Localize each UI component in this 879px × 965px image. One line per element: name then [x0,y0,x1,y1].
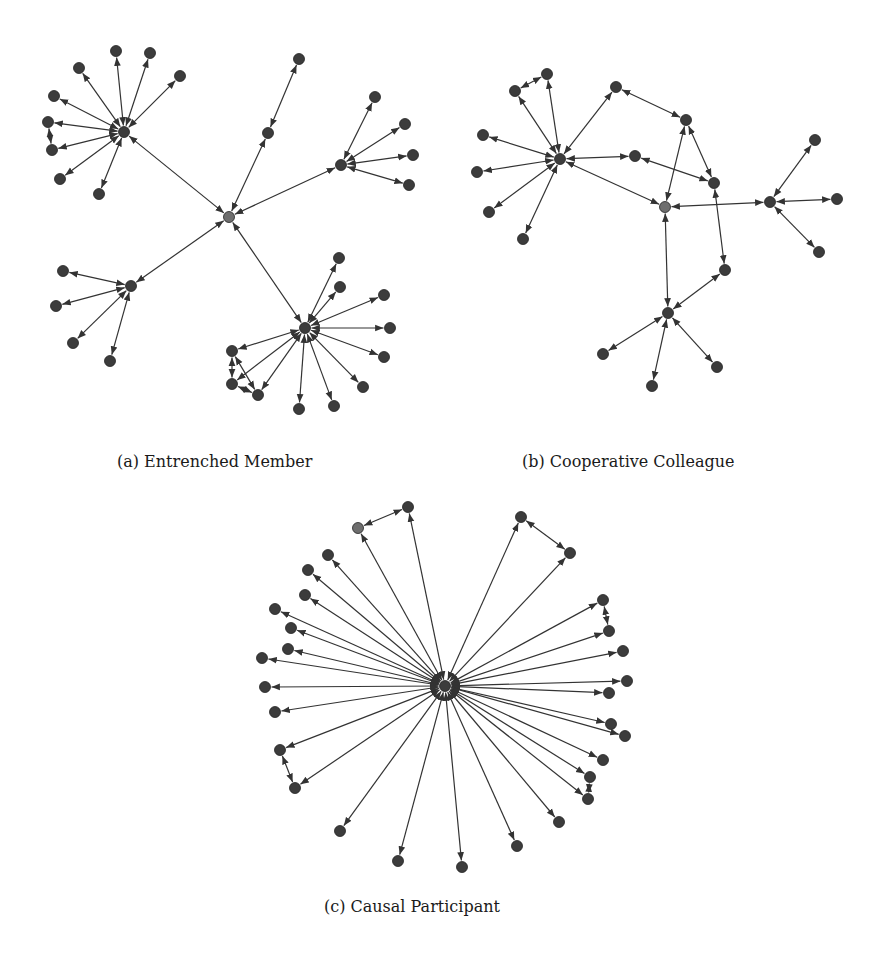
node [583,794,594,805]
edge [262,333,302,389]
edge [117,58,124,126]
center-node [660,202,671,213]
node [622,676,633,687]
node [51,301,62,312]
edge [672,318,712,362]
node [478,130,489,141]
node [336,160,347,171]
edge [286,688,439,747]
edge [609,317,663,351]
edge [300,690,439,785]
edge [271,65,297,127]
node [260,682,271,693]
edge [519,96,557,153]
edge [233,222,302,322]
graph-entrenched-member [43,46,419,415]
node [227,379,238,390]
edge [448,523,519,680]
node [765,197,776,208]
node [832,194,843,205]
edge [521,77,542,88]
node [606,719,617,730]
node [175,71,186,82]
network-figure [0,0,879,965]
edge [297,630,439,683]
node [472,167,483,178]
edge [235,168,335,215]
edge [129,136,224,213]
edge [653,319,666,379]
node [618,646,629,657]
node [379,352,390,363]
node [510,86,521,97]
edge [526,521,565,549]
edge [281,687,438,711]
edge [129,81,176,128]
caption-entrenched-member: (a) Entrenched Member [117,452,312,471]
edge [589,784,590,793]
node [227,346,238,357]
node [565,548,576,559]
edge [777,199,831,201]
edge [272,686,439,687]
node [294,404,305,415]
node [94,189,105,200]
node [55,174,66,185]
node [403,502,414,513]
caption-causal-participant: (c) Causal Participant [324,897,500,916]
node [604,688,615,699]
edge [483,160,553,171]
edge [667,126,685,200]
edge [344,103,372,159]
node [457,862,468,873]
node [585,772,596,783]
node [518,234,529,245]
edge [665,214,668,307]
edge [715,189,724,263]
edge [136,221,223,283]
graph-cooperative-colleague [472,69,843,392]
edge [774,145,811,196]
edge [311,298,378,326]
node [145,48,156,59]
edge [313,574,440,682]
node [290,783,301,794]
edge [83,73,121,126]
node [283,644,294,655]
edge [126,59,148,126]
edge [307,334,331,400]
node [604,626,615,637]
node [408,150,419,161]
node [286,623,297,634]
center-node [353,523,364,534]
edge [689,126,712,177]
edge [300,335,305,403]
caption-cooperative-colleague: (b) Cooperative Colleague [522,452,735,471]
node [516,512,527,523]
edge [489,137,554,157]
edge [69,272,124,284]
edge [548,80,559,152]
node [709,178,720,189]
edge [450,558,566,682]
node [647,381,658,392]
edge [282,756,292,782]
edge [310,333,359,383]
node [275,745,286,756]
node [611,82,622,93]
edge [409,513,443,679]
edge [238,387,252,393]
node [681,115,692,126]
node [542,69,553,80]
edge [622,90,680,117]
edge [567,156,629,158]
node [111,46,122,57]
edge [400,692,444,854]
node [598,349,609,360]
edge [526,165,558,233]
edge [673,274,720,309]
node [263,128,274,139]
node [484,207,495,218]
node [43,117,54,128]
node [270,604,281,615]
